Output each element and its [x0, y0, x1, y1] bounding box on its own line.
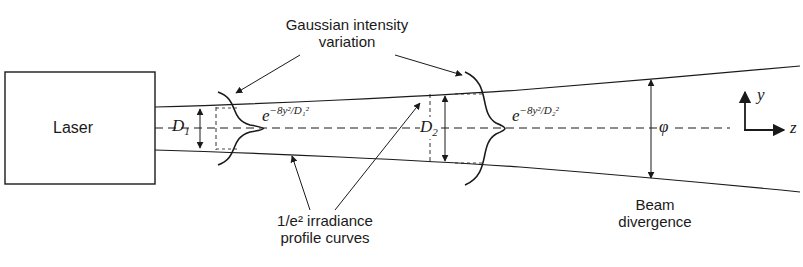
- z-axis-label: z: [790, 118, 797, 138]
- d2-label: D2: [420, 117, 438, 139]
- divergence-annotation-line1: Beam: [605, 196, 705, 213]
- y-axis-label: y: [757, 85, 765, 105]
- gaussian-formula-1: e−8y²/D₁²: [262, 104, 309, 125]
- gaussian-formula-2: e−8y²/D₂²: [512, 104, 559, 125]
- irradiance-pointer-2: [335, 103, 420, 210]
- d1-label: D1: [172, 116, 190, 138]
- irradiance-annotation-line1: 1/e² irradiance: [250, 212, 400, 229]
- gaussian-annotation-line1: Gaussian intensity: [262, 16, 432, 33]
- divergence-annotation: Beam divergence: [605, 196, 705, 231]
- irradiance-annotation-line2: profile curves: [250, 229, 400, 246]
- gaussian-pointer-1: [236, 55, 300, 93]
- gaussian-annotation: Gaussian intensity variation: [262, 16, 432, 51]
- gaussian-pointer-2: [395, 55, 462, 75]
- divergence-annotation-line2: divergence: [605, 213, 705, 230]
- phi-label: φ: [657, 117, 670, 137]
- beam-envelope-top: [155, 66, 800, 107]
- irradiance-pointer-1: [292, 156, 310, 210]
- beam-envelope-bottom: [155, 150, 800, 192]
- laser-label: Laser: [53, 119, 93, 137]
- gaussian-annotation-line2: variation: [262, 33, 432, 50]
- irradiance-annotation: 1/e² irradiance profile curves: [250, 212, 400, 247]
